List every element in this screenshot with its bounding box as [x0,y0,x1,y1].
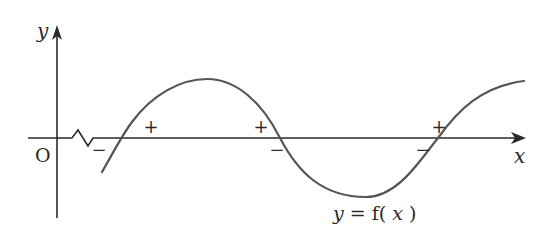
y-axis: y [36,19,62,218]
origin-label: O [35,144,51,166]
root-3-right-sign: + [431,116,446,137]
curve-label: y = f( x ) [332,202,416,224]
curve-label-f: f( [372,202,386,224]
root-2-left-sign: + [253,116,268,137]
root-1-left-sign: − [91,139,106,160]
curve-label-eq: = [350,202,366,224]
y-axis-label: y [36,19,49,43]
root-3-left-sign: − [415,139,430,160]
function-graph-figure: y x O − + + − − + y = f( [0,0,545,247]
curve-label-close: ) [409,202,416,224]
curve-label-var: x [392,202,403,224]
curve-label-lhs: y [332,202,344,224]
x-axis-label: x [514,144,525,168]
root-1-right-sign: + [143,116,158,137]
root-2-right-sign: − [269,139,284,160]
